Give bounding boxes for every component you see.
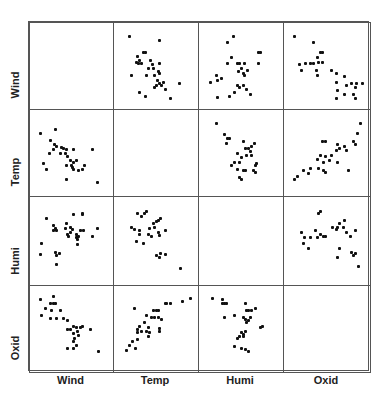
data-point [158, 62, 161, 65]
data-point [133, 228, 136, 231]
data-point [89, 328, 92, 331]
data-point [142, 242, 145, 245]
data-point [300, 231, 303, 234]
data-point [65, 222, 68, 225]
data-point [96, 227, 99, 230]
panel-wind-vs-temp [113, 22, 199, 110]
data-point [242, 140, 245, 143]
data-point [343, 93, 346, 96]
data-point [324, 140, 327, 143]
data-point [343, 75, 346, 78]
data-point [317, 61, 320, 64]
data-point [236, 168, 239, 171]
data-point [309, 167, 312, 170]
data-point [359, 122, 362, 125]
data-point [230, 164, 233, 167]
data-point [223, 133, 226, 136]
data-point [138, 325, 141, 328]
data-point [319, 210, 322, 213]
data-point [347, 169, 350, 172]
data-point [312, 41, 315, 44]
data-point [133, 307, 136, 310]
data-point [181, 300, 184, 303]
data-point [243, 74, 246, 77]
data-point [158, 330, 161, 333]
data-point [160, 84, 163, 87]
data-point [316, 158, 319, 161]
data-point [356, 132, 359, 135]
data-point [354, 97, 357, 100]
data-point [226, 41, 229, 44]
data-point [223, 316, 226, 319]
data-point [343, 145, 346, 148]
data-point [354, 229, 357, 232]
data-point [128, 344, 131, 347]
data-point [244, 330, 247, 333]
data-point [39, 298, 42, 301]
data-point [128, 35, 131, 38]
data-point [236, 152, 239, 155]
panel-wind-vs-oxid [283, 22, 371, 110]
data-point [39, 253, 42, 256]
data-point [233, 91, 236, 94]
data-point [169, 302, 172, 305]
data-point [145, 210, 148, 213]
data-point [151, 63, 154, 66]
data-point [354, 86, 357, 89]
data-point [136, 55, 139, 58]
data-point [82, 229, 85, 232]
data-point [72, 332, 75, 335]
data-point [59, 309, 62, 312]
data-point [242, 84, 245, 87]
data-point [77, 334, 80, 337]
data-point [134, 347, 137, 350]
data-point [240, 178, 243, 181]
data-point [335, 97, 338, 100]
data-point [55, 317, 58, 320]
data-point [350, 82, 353, 85]
data-point [72, 347, 75, 350]
data-point [44, 307, 47, 310]
data-point [335, 228, 338, 231]
data-point [50, 309, 53, 312]
data-point [293, 178, 296, 181]
data-point [293, 35, 296, 38]
panel-humi-vs-humi [198, 196, 284, 286]
data-point [250, 145, 253, 148]
data-point [261, 325, 264, 328]
data-point [76, 243, 79, 246]
data-point [153, 86, 156, 89]
data-point [145, 74, 148, 77]
data-point [336, 256, 339, 259]
data-point [72, 340, 75, 343]
panel-wind-vs-wind [29, 22, 114, 110]
data-point [39, 132, 42, 135]
data-point [240, 156, 243, 159]
data-point [59, 152, 62, 155]
data-point [330, 69, 333, 72]
data-point [319, 154, 322, 157]
data-point [336, 89, 339, 92]
data-point [316, 74, 319, 77]
data-point [335, 72, 338, 75]
data-point [220, 77, 223, 80]
data-point [131, 340, 134, 343]
data-point [71, 228, 74, 231]
data-point [158, 72, 161, 75]
data-point [66, 347, 69, 350]
data-point [253, 142, 256, 145]
data-point [160, 318, 163, 321]
data-point [83, 164, 86, 167]
data-point [69, 231, 72, 234]
panel-oxid-vs-oxid [283, 285, 371, 373]
data-point [75, 344, 78, 347]
panel-temp-vs-humi [198, 109, 284, 197]
data-point [254, 171, 257, 174]
data-point [45, 217, 48, 220]
data-point [228, 95, 231, 98]
data-point [338, 222, 341, 225]
data-point [240, 67, 243, 70]
data-point [69, 328, 72, 331]
data-point [216, 96, 219, 99]
data-point [226, 62, 229, 65]
